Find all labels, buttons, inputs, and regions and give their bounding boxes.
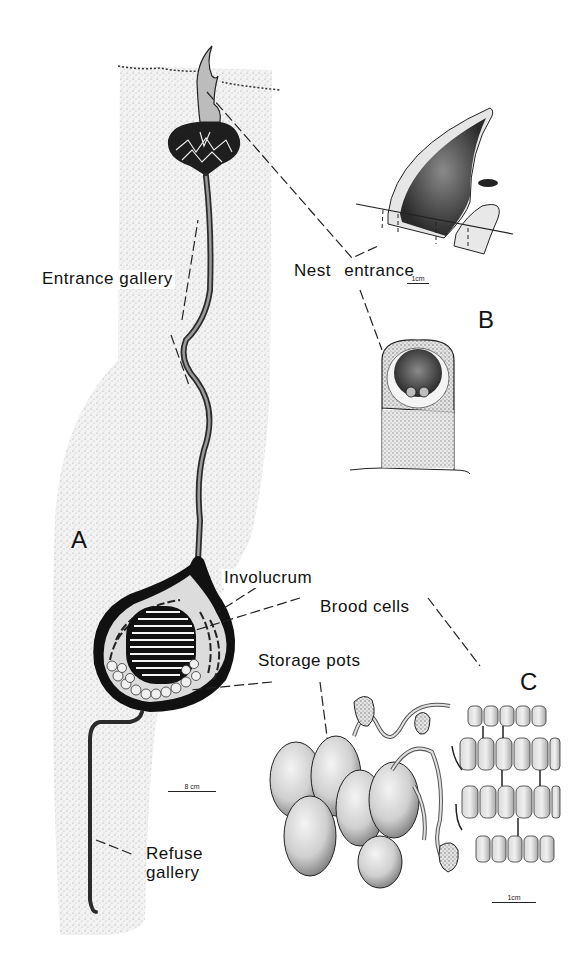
nest-diagram: Entrance gallery Nest entrance Involucru… xyxy=(0,0,584,964)
scale-bar-b: 1cm xyxy=(407,275,429,284)
scale-bar-a-label: 8 cm xyxy=(168,783,216,790)
panel-letter-c: C xyxy=(520,670,537,694)
label-refuse-gallery-line2: gallery xyxy=(146,864,203,883)
panel-a-soil xyxy=(52,66,280,935)
scale-bar-a: 8 cm xyxy=(168,783,216,792)
label-nest-entrance: Nest entrance xyxy=(292,262,416,281)
panel-letter-b: B xyxy=(478,308,494,332)
scale-bar-c: 1cm xyxy=(492,894,536,903)
label-brood-cells: Brood cells xyxy=(318,598,412,617)
scale-bar-b-label: 1cm xyxy=(407,275,429,282)
panel-c-storage-pots xyxy=(270,696,458,888)
brood-cell-row-1 xyxy=(468,706,546,726)
label-involucrum: Involucrum xyxy=(222,569,314,588)
label-storage-pots: Storage pots xyxy=(256,652,362,671)
label-entrance-gallery: Entrance gallery xyxy=(40,270,175,289)
panel-b-side-view xyxy=(356,108,513,254)
illustration xyxy=(0,0,584,964)
panel-b-front-view xyxy=(350,340,470,474)
brood-cell-row-2 xyxy=(460,738,560,770)
label-refuse-gallery-line1: Refuse xyxy=(146,845,203,864)
brood-cell-row-3 xyxy=(462,786,560,818)
panel-letter-a: A xyxy=(71,528,87,552)
label-refuse-gallery: Refuse gallery xyxy=(144,845,205,882)
brood-cell-row-4 xyxy=(476,836,554,862)
panel-c-brood-cells xyxy=(452,706,560,862)
scale-bar-c-label: 1cm xyxy=(492,894,536,901)
